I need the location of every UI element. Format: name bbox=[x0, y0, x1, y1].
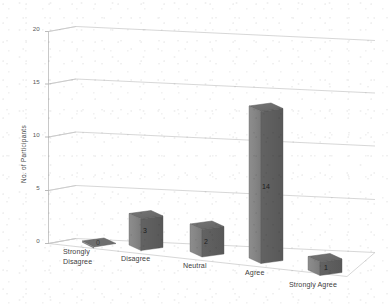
floor-left-edge bbox=[49, 239, 77, 244]
wall-depth-10 bbox=[49, 132, 77, 137]
wall-depth-5 bbox=[49, 186, 77, 191]
y-axis-title: No. of Participants bbox=[20, 125, 27, 183]
bar-value-strongly-agree: 1 bbox=[324, 264, 328, 272]
x-label-neutral: Neutral bbox=[183, 263, 207, 271]
y-tick-label-15: 15 bbox=[24, 79, 40, 86]
bar-value-neutral: 2 bbox=[204, 238, 208, 246]
y-axis-ticks bbox=[45, 32, 49, 244]
floor-right-edge bbox=[347, 253, 375, 277]
x-label-agree: Agree bbox=[245, 270, 264, 278]
bar-value-strongly-disagree: 0 bbox=[96, 239, 100, 247]
chart-plot-area bbox=[0, 0, 388, 305]
wall-top-depth bbox=[49, 27, 77, 32]
y-tick-label-20: 20 bbox=[24, 26, 40, 33]
x-label-strongly-disagree: StronglyDisagree bbox=[63, 247, 92, 268]
gridline-15 bbox=[49, 79, 376, 93]
bar-neutral-front bbox=[190, 224, 202, 257]
wall-depth-15 bbox=[49, 79, 77, 84]
gridline-5 bbox=[49, 186, 376, 200]
x-label-strongly-disagree-line1: Strongly bbox=[63, 248, 90, 256]
bar-value-agree: 14 bbox=[262, 183, 270, 191]
gridline-20-back bbox=[49, 27, 376, 41]
gridline-10 bbox=[49, 132, 376, 146]
bar-value-disagree: 3 bbox=[143, 227, 147, 235]
x-label-disagree: Disagree bbox=[121, 256, 150, 264]
bar-agree-front bbox=[249, 106, 261, 264]
chart-container: 20 15 10 5 0 No. of Participants Strongl… bbox=[0, 0, 388, 305]
y-tick-label-5: 5 bbox=[24, 185, 40, 192]
bar-disagree-front bbox=[129, 214, 141, 251]
x-label-strongly-disagree-line2: Disagree bbox=[63, 258, 92, 266]
y-tick-label-0: 0 bbox=[24, 238, 40, 245]
x-label-strongly-agree: Strongly Agree bbox=[289, 282, 337, 290]
